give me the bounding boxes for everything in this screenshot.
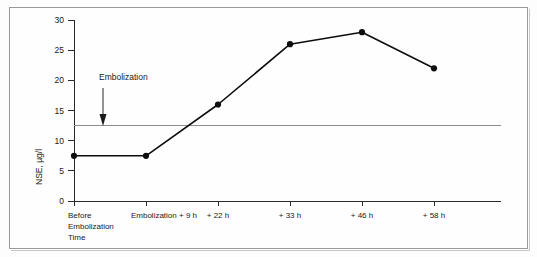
- y-tick-label-0: 0: [59, 196, 64, 206]
- y-tick-label-20: 20: [55, 75, 65, 85]
- x-axis: Before Embolization Time Embolization + …: [68, 201, 501, 242]
- embolization-annotation-label: Embolization: [99, 72, 148, 82]
- y-tick-label-25: 25: [55, 45, 65, 55]
- x-tick-label-embolization-9h: Embolization + 9 h: [131, 211, 197, 220]
- x-tick-label-46h: + 46 h: [351, 211, 373, 220]
- data-point: [215, 101, 221, 107]
- y-axis-title: NSE, µg/l: [34, 149, 44, 185]
- figure-container: 30 25 20 15 10 5 0 NSE, µg/l Before Embo…: [0, 0, 537, 257]
- series-line-nse: [74, 32, 434, 156]
- x-tick-label-before-line3: Time: [68, 233, 86, 242]
- series-nse: [71, 29, 437, 159]
- data-point: [359, 29, 365, 35]
- data-point: [287, 41, 293, 47]
- y-tick-label-30: 30: [55, 15, 65, 25]
- arrow-down-icon: [100, 114, 107, 126]
- embolization-annotation: Embolization: [99, 72, 148, 126]
- x-tick-label-before-line2: Embolization: [68, 222, 114, 231]
- y-tick-label-10: 10: [55, 136, 65, 146]
- data-point: [71, 153, 77, 159]
- y-axis: 30 25 20 15 10 5 0 NSE, µg/l: [34, 15, 74, 206]
- data-point: [143, 153, 149, 159]
- y-tick-label-15: 15: [55, 106, 65, 116]
- x-tick-label-58h: + 58 h: [423, 211, 445, 220]
- x-tick-label-before-line1: Before: [68, 211, 92, 220]
- x-tick-label-22h: + 22 h: [207, 211, 229, 220]
- y-tick-label-5: 5: [59, 166, 64, 176]
- line-chart: 30 25 20 15 10 5 0 NSE, µg/l Before Embo…: [0, 0, 537, 257]
- data-point: [431, 65, 437, 71]
- x-tick-label-33h: + 33 h: [279, 211, 301, 220]
